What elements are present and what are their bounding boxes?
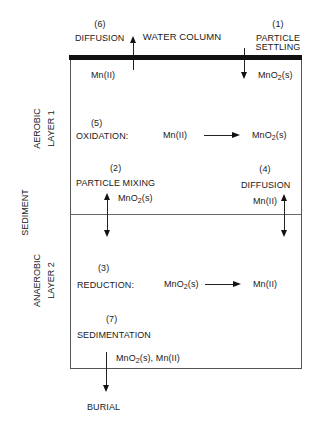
figure-caption-fragment — [0, 415, 318, 425]
process-5-from: Mn(II) — [163, 130, 187, 140]
process-7-species: MnO2(s), Mn(II) — [116, 353, 180, 363]
arrow-down-icon — [104, 230, 110, 237]
process-3-number: (3) — [98, 263, 109, 273]
arrow-right-icon — [232, 132, 240, 138]
mixing-arrow-line — [107, 199, 108, 230]
process-7-label: SEDIMENTATION — [77, 330, 151, 340]
process-5-number: (5) — [91, 118, 102, 128]
process-6-label: DIFFUSION — [75, 33, 124, 43]
process-4-number: (4) — [250, 164, 280, 174]
process-5-to: MnO2(s) — [252, 130, 287, 140]
process-1-label-line2: SETTLING — [248, 42, 308, 52]
water-column-label: WATER COLUMN — [127, 32, 237, 42]
sediment-water-interface — [69, 55, 302, 60]
layer-1-name-line1: AEROBIC — [32, 104, 43, 154]
process-3-from: MnO2(s) — [164, 279, 199, 289]
process-6-number: (6) — [85, 19, 115, 29]
arrow-right-icon — [233, 281, 241, 287]
process-5-label: OXIDATION: — [76, 131, 128, 141]
process-2-label: PARTICLE MIXING — [76, 178, 155, 188]
arrow-down-icon — [103, 385, 109, 392]
process-3-to: Mn(II) — [253, 279, 277, 289]
layer-2-name-line1: ANAEROBIC — [32, 251, 43, 311]
diffusion-arrow-line-lower — [284, 200, 285, 230]
process-1-number: (1) — [263, 19, 293, 29]
process-2-species: MnO2(s) — [118, 193, 153, 203]
process-7-number: (7) — [106, 314, 117, 324]
reduction-arrow-line — [205, 284, 234, 285]
process-2-number: (2) — [110, 163, 121, 173]
process-3-label: REDUCTION: — [77, 280, 134, 290]
layer-2-name-line2: LAYER 2 — [46, 256, 57, 306]
oxidation-arrow-line — [204, 135, 232, 136]
process-4-label: DIFFUSION — [241, 180, 290, 190]
arrow-down-icon — [281, 230, 287, 237]
layer-divider — [70, 214, 301, 215]
sediment-label: SEDIMENT — [20, 178, 31, 248]
burial-arrow-line — [106, 352, 107, 385]
layer-1-name-line2: LAYER 1 — [46, 104, 57, 154]
burial-label: BURIAL — [87, 402, 120, 412]
process-4-species: Mn(II) — [253, 196, 277, 206]
